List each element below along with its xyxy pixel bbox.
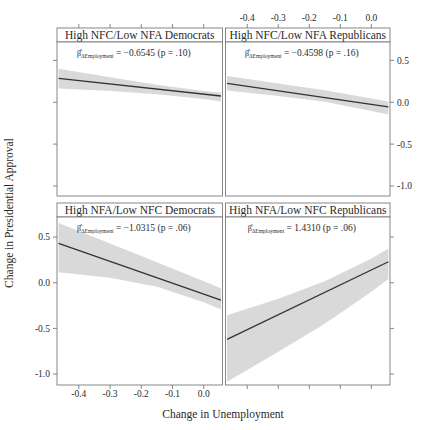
y-tick-label-right: -1.0 (397, 181, 412, 191)
x-tick-label-top: -0.3 (271, 13, 286, 23)
y-tick-label-right: 0.0 (397, 98, 409, 108)
x-tick-label-bottom: -0.1 (165, 389, 180, 399)
x-tick-label-bottom: -0.4 (71, 389, 86, 399)
panel-strip-label: High NFA/Low NFC Democrats (65, 204, 216, 217)
x-tick-label-bottom: -0.3 (103, 389, 118, 399)
panel-frame (57, 42, 223, 196)
x-tick-label-top: -0.4 (240, 13, 255, 23)
panel-top-right: High NFC/Low NFA Republicansβ̂ΔEmploymen… (226, 28, 391, 196)
y-tick-label-left: -0.5 (35, 324, 50, 334)
x-tick-label-bottom: -0.2 (134, 389, 149, 399)
x-tick-label-top: -0.2 (302, 13, 317, 23)
panel-strip-label: High NFA/Low NFC Republicans (229, 204, 387, 217)
x-tick-label-bottom: 0.0 (198, 389, 210, 399)
y-tick-label-left: 0.5 (38, 232, 50, 242)
panel-frame (226, 42, 391, 196)
y-tick-label-right: -0.5 (397, 140, 412, 150)
regression-panel-figure: High NFC/Low NFA Democratsβ̂ΔEmployment … (0, 0, 428, 430)
panel-strip-label: High NFC/Low NFA Democrats (65, 29, 215, 42)
panel-strip-label: High NFC/Low NFA Republicans (229, 29, 386, 42)
y-tick-label-left: -1.0 (35, 369, 50, 379)
chart-canvas: High NFC/Low NFA Democratsβ̂ΔEmployment … (0, 0, 428, 430)
x-axis-title: Change in Unemployment (162, 408, 284, 421)
y-tick-label-right: 0.5 (397, 56, 409, 66)
panel-bottom-left: High NFA/Low NFC Democratsβ̂ΔEmployment … (57, 203, 223, 385)
panel-top-left: High NFC/Low NFA Democratsβ̂ΔEmployment … (57, 28, 223, 196)
x-tick-label-top: 0.0 (365, 13, 377, 23)
y-tick-label-left: 0.0 (38, 278, 50, 288)
panel-bottom-right: High NFA/Low NFC Republicansβ̂ΔEmploymen… (226, 203, 391, 385)
x-tick-label-top: -0.1 (333, 13, 348, 23)
y-axis-title: Change in Presidential Approval (3, 138, 16, 288)
